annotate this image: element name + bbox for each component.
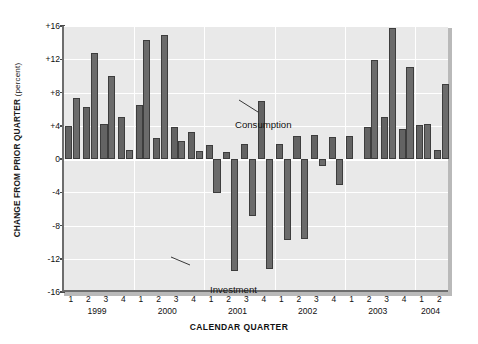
y-tick-label: -4 bbox=[34, 187, 60, 197]
bar-consumption-1999-q2 bbox=[83, 107, 90, 159]
bar-investment-1999-q2 bbox=[91, 53, 98, 159]
x-tick-quarter-label: 1 bbox=[349, 294, 354, 304]
bar-consumption-2003-q1 bbox=[346, 136, 353, 159]
x-tick-quarter-label: 3 bbox=[244, 294, 249, 304]
gridline bbox=[64, 259, 448, 260]
bar-consumption-1999-q1 bbox=[65, 126, 72, 159]
bar-consumption-2000-q3 bbox=[171, 127, 178, 159]
x-axis-year-label: 2001 bbox=[228, 306, 247, 316]
bar-consumption-2002-q3 bbox=[311, 135, 318, 159]
bar-consumption-2003-q2 bbox=[364, 127, 371, 159]
bar-investment-2001-q4 bbox=[266, 159, 273, 269]
x-axis-year-label: 2000 bbox=[158, 306, 177, 316]
y-tick-label: +12 bbox=[34, 54, 60, 64]
bar-investment-2003-q4 bbox=[406, 67, 413, 159]
bar-investment-2002-q3 bbox=[319, 159, 326, 166]
bar-consumption-2002-q1 bbox=[276, 144, 283, 159]
gridline bbox=[64, 192, 448, 193]
bar-investment-1999-q1 bbox=[73, 98, 80, 159]
x-tick-quarter-label: 1 bbox=[419, 294, 424, 304]
bar-consumption-2000-q1 bbox=[136, 105, 143, 159]
y-axis-tick-labels: +16+12+8+40-4-8-12-16 bbox=[30, 26, 60, 292]
bar-investment-2001-q1 bbox=[213, 159, 220, 193]
plot-area: Consumption Investment bbox=[62, 26, 448, 292]
x-tick-quarter-label: 2 bbox=[437, 294, 442, 304]
bar-investment-2001-q3 bbox=[249, 159, 256, 216]
y-tick-label: -8 bbox=[34, 221, 60, 231]
bar-consumption-2003-q3 bbox=[381, 117, 388, 159]
x-tick-quarter-label: 3 bbox=[384, 294, 389, 304]
bar-consumption-2002-q4 bbox=[329, 137, 336, 159]
bar-investment-2004-q2 bbox=[442, 84, 449, 159]
x-tick-quarter-label: 1 bbox=[209, 294, 214, 304]
x-tick-quarter-label: 2 bbox=[367, 294, 372, 304]
bar-investment-2002-q1 bbox=[284, 159, 291, 240]
bar-investment-2000-q3 bbox=[178, 141, 185, 159]
x-tick-quarter-label: 3 bbox=[174, 294, 179, 304]
y-tick-label: +4 bbox=[34, 121, 60, 131]
bar-consumption-2003-q4 bbox=[399, 129, 406, 159]
bar-consumption-2001-q3 bbox=[241, 144, 248, 159]
bar-consumption-2001-q2 bbox=[223, 152, 230, 159]
bar-consumption-2004-q1 bbox=[416, 125, 423, 159]
x-axis-year-label: 2004 bbox=[421, 306, 440, 316]
x-axis-year-label: 2003 bbox=[368, 306, 387, 316]
x-tick-quarter-label: 4 bbox=[121, 294, 126, 304]
bar-consumption-1999-q4 bbox=[118, 117, 125, 159]
x-tick-quarter-label: 2 bbox=[86, 294, 91, 304]
y-tick-label: +16 bbox=[34, 21, 60, 31]
bar-investment-2004-q1 bbox=[424, 124, 431, 159]
bar-investment-2001-q2 bbox=[231, 159, 238, 271]
x-tick-quarter-label: 1 bbox=[68, 294, 73, 304]
chart-figure: CHANGE FROM PRIOR QUARTER (percent) +16+… bbox=[0, 0, 478, 344]
bar-investment-2000-q4 bbox=[196, 151, 203, 159]
gridline bbox=[64, 159, 448, 161]
x-tick-quarter-label: 2 bbox=[226, 294, 231, 304]
bar-investment-2000-q1 bbox=[143, 40, 150, 159]
bar-investment-2003-q2 bbox=[371, 60, 378, 159]
x-axis-labels: 1234199912342000123420011234200212342003… bbox=[62, 294, 448, 324]
bar-consumption-2002-q2 bbox=[293, 136, 300, 159]
bar-investment-2000-q2 bbox=[161, 35, 168, 159]
bar-investment-2003-q3 bbox=[389, 28, 396, 159]
x-tick-quarter-label: 4 bbox=[261, 294, 266, 304]
y-tick-label: -12 bbox=[34, 254, 60, 264]
y-axis-title-unit: (percent) bbox=[13, 63, 22, 97]
y-axis-title: CHANGE FROM PRIOR QUARTER (percent) bbox=[0, 0, 34, 300]
x-axis-title: CALENDAR QUARTER bbox=[0, 322, 478, 332]
x-axis-year-label: 2002 bbox=[298, 306, 317, 316]
annotation-consumption: Consumption bbox=[235, 119, 292, 130]
x-tick-quarter-label: 2 bbox=[156, 294, 161, 304]
y-tick-label: +8 bbox=[34, 88, 60, 98]
x-tick-quarter-label: 1 bbox=[279, 294, 284, 304]
bar-consumption-1999-q3 bbox=[100, 124, 107, 159]
x-tick-quarter-label: 4 bbox=[402, 294, 407, 304]
x-tick-quarter-label: 3 bbox=[104, 294, 109, 304]
x-tick-quarter-label: 1 bbox=[139, 294, 144, 304]
x-tick-quarter-label: 4 bbox=[332, 294, 337, 304]
bar-investment-1999-q3 bbox=[108, 76, 115, 159]
bar-consumption-2000-q2 bbox=[153, 138, 160, 159]
gridline bbox=[64, 226, 448, 227]
bar-consumption-2001-q1 bbox=[206, 145, 213, 159]
bar-consumption-2000-q4 bbox=[188, 132, 195, 159]
bar-investment-2002-q2 bbox=[301, 159, 308, 239]
bar-investment-1999-q4 bbox=[126, 150, 133, 159]
x-axis-year-label: 1999 bbox=[88, 306, 107, 316]
x-tick-quarter-label: 4 bbox=[191, 294, 196, 304]
x-tick-quarter-label: 2 bbox=[297, 294, 302, 304]
y-axis-title-main: CHANGE FROM PRIOR QUARTER bbox=[12, 99, 22, 237]
bar-investment-2002-q4 bbox=[336, 159, 343, 185]
x-tick-quarter-label: 3 bbox=[314, 294, 319, 304]
y-tick-label: 0 bbox=[34, 154, 60, 164]
y-tick-label: -16 bbox=[34, 287, 60, 297]
bar-consumption-2004-q2 bbox=[434, 150, 441, 159]
